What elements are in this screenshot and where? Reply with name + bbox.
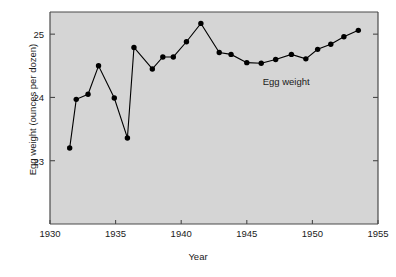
data-point [85,92,90,97]
data-point [184,39,189,44]
chart-figure: Egg weight (ounces per dozen) Year 19301… [0,0,396,277]
data-point [303,56,308,61]
data-point [125,135,130,140]
data-point [150,66,155,71]
data-point [328,42,333,47]
data-point [228,52,233,57]
data-point [74,97,79,102]
data-point [259,61,264,66]
x-tick-label: 1955 [367,228,388,239]
data-point [244,60,249,65]
x-axis-label: Year [0,251,396,262]
data-point [198,21,203,26]
data-point [356,28,361,33]
data-point [131,45,136,50]
y-tick-label: 23 [22,155,44,166]
data-point [315,47,320,52]
data-point [160,54,165,59]
y-tick-label: 24 [22,92,44,103]
series-annotation-label: Egg weight [263,76,310,87]
x-tick-label: 1945 [236,228,257,239]
y-tick-label: 25 [22,29,44,40]
data-point [112,95,117,100]
data-point [96,63,101,68]
data-point [217,50,222,55]
x-tick-label: 1930 [39,228,60,239]
data-point [171,54,176,59]
data-point [289,52,294,57]
data-point [67,145,72,150]
data-point [341,34,346,39]
x-tick-label: 1950 [302,228,323,239]
x-tick-label: 1935 [105,228,126,239]
x-tick-label: 1940 [171,228,192,239]
data-point [273,57,278,62]
